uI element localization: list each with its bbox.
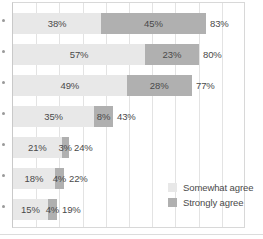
chart-legend: Somewhat agree Strongly agree [168, 182, 253, 208]
bar-label-total: 24% [74, 137, 93, 158]
bar-label-somewhat: 15% [21, 204, 40, 215]
bar-label-strongly: 3% [58, 142, 72, 153]
bar-segment-strongly: 3% [62, 137, 69, 158]
bar-segment-somewhat: 57% [13, 44, 145, 65]
bar-label-strongly: 4% [53, 173, 67, 184]
legend-item-somewhat-agree[interactable]: Somewhat agree [168, 182, 253, 193]
stacked-bar-chart: 38% 45% 83% 57% 23% 80% 49% 28% 7 [0, 0, 263, 239]
table-row: 49% 28% 77% [13, 75, 244, 96]
legend-label: Strongly agree [183, 197, 243, 208]
bar-label-strongly: 4% [46, 204, 60, 215]
bar-label-total: 19% [62, 199, 81, 220]
bar-segment-somewhat: 35% [13, 106, 94, 127]
bar-label-somewhat: 35% [44, 111, 63, 122]
category-tick-6 [2, 174, 5, 177]
bar-label-somewhat: 49% [60, 80, 79, 91]
bar-segment-somewhat: 38% [13, 13, 101, 34]
bar-label-strongly: 28% [150, 80, 169, 91]
category-tick-1 [2, 19, 5, 22]
bar-segment-strongly: 23% [145, 44, 198, 65]
bar-segment-strongly: 28% [127, 75, 192, 96]
bar-segment-somewhat: 49% [13, 75, 127, 96]
bar-segment-strongly: 8% [94, 106, 113, 127]
bar-label-somewhat: 38% [48, 18, 67, 29]
bar-label-total: 22% [69, 168, 88, 189]
bar-label-strongly: 8% [97, 111, 111, 122]
category-tick-5 [2, 143, 5, 146]
bar-segment-somewhat: 18% [13, 168, 55, 189]
legend-label: Somewhat agree [183, 182, 253, 193]
bar-segment-strongly: 4% [55, 168, 64, 189]
bar-label-strongly: 45% [144, 18, 163, 29]
bar-label-somewhat: 57% [70, 49, 89, 60]
footer-divider [0, 234, 263, 235]
table-row: 57% 23% 80% [13, 44, 244, 65]
bar-label-strongly: 23% [163, 49, 182, 60]
category-tick-3 [2, 81, 5, 84]
bar-label-somewhat: 21% [28, 142, 47, 153]
legend-item-strongly-agree[interactable]: Strongly agree [168, 197, 253, 208]
table-row: 38% 45% 83% [13, 13, 244, 34]
bar-segment-strongly: 4% [48, 199, 57, 220]
bar-label-somewhat: 18% [25, 173, 44, 184]
bar-label-total: 43% [117, 106, 136, 127]
table-row: 21% 3% 24% [13, 137, 244, 158]
category-tick-2 [2, 50, 5, 53]
category-tick-4 [2, 112, 5, 115]
bar-label-total: 80% [203, 44, 222, 65]
category-tick-7 [2, 205, 5, 208]
bar-label-total: 83% [210, 13, 229, 34]
bar-label-total: 77% [196, 75, 215, 96]
legend-swatch-icon [168, 183, 177, 192]
bar-segment-somewhat: 21% [13, 137, 62, 158]
table-row: 35% 8% 43% [13, 106, 244, 127]
bar-segment-strongly: 45% [101, 13, 205, 34]
bar-segment-somewhat: 15% [13, 199, 48, 220]
legend-swatch-icon [168, 198, 177, 207]
